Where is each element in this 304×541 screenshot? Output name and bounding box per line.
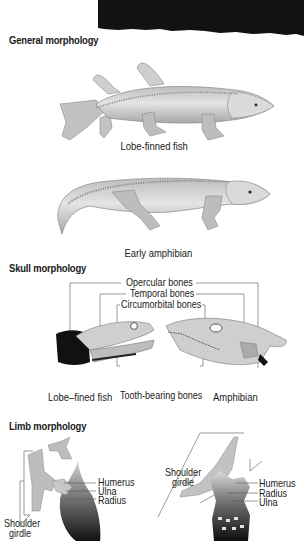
torn-black-band [0,0,304,36]
fish-skull-illustration [50,320,170,390]
lobe-finned-fish-caption: Lobe-finned fish [120,140,187,152]
circumorbital-bones-label: Circumorbital bones [121,299,201,310]
fish-shoulder-girdle-label-line2: girdle [9,528,31,539]
tooth-bearing-bones-label: Tooth-bearing bones [120,390,202,401]
fish-radius-label: Radius [98,495,126,506]
early-amphibian-illustration [0,160,304,245]
early-amphibian-caption: Early amphibian [125,247,193,259]
general-morphology-heading: General morphology [9,34,98,46]
lobe-finned-fish-illustration [0,48,304,138]
skull-morphology-heading: Skull morphology [9,262,86,274]
amphibian-shoulder-girdle-label-line2: girdle [172,477,194,488]
skull-amphibian-caption: Amphibian [213,392,258,403]
skull-fish-caption: Lobe–fined fish [48,392,112,403]
amphibian-skull-illustration [160,316,300,391]
amphibian-ulna-label: Ulna [259,497,278,508]
